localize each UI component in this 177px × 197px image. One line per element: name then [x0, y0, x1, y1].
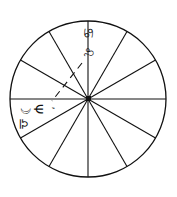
leo-sign-icon: ♌ — [81, 46, 96, 58]
left-planet-group: ☽ — [18, 103, 33, 115]
left-sign-group: ♎ — [16, 118, 31, 130]
libra-sign-icon: ♎ — [16, 118, 31, 130]
neptune-group: Ψ — [31, 104, 46, 114]
neptune-icon: Ψ — [31, 104, 46, 114]
mark-group: ʼ — [45, 106, 56, 109]
cancer-sign-icon: ♋ — [81, 27, 96, 39]
astro-wheel: ♋ ♌ ☽ Ψ ʼ ♎ — [0, 0, 177, 197]
moon-icon: ☽ — [18, 103, 33, 115]
top-sign-group-2: ♌ — [81, 46, 96, 58]
retrograde-mark-icon: ʼ — [45, 106, 56, 109]
wheel-center-dot — [86, 96, 91, 101]
top-sign-group: ♋ — [81, 27, 96, 39]
